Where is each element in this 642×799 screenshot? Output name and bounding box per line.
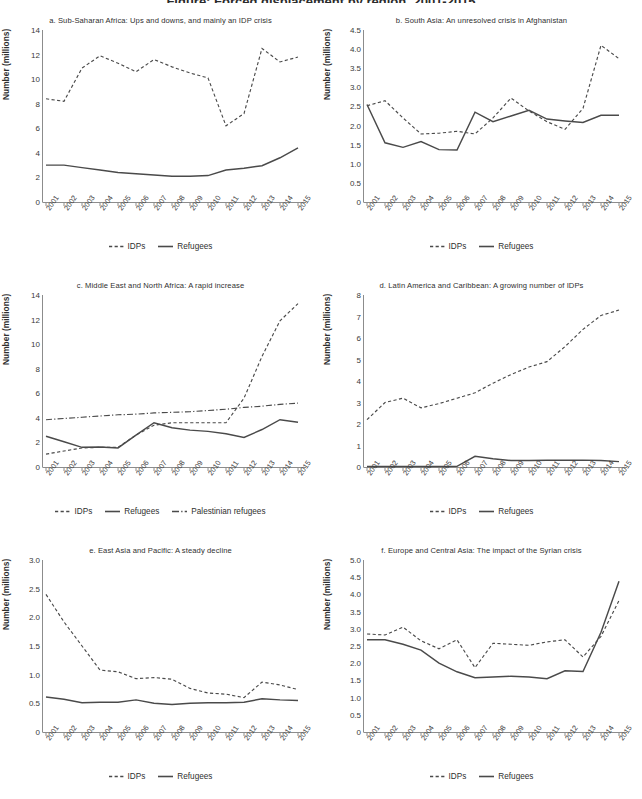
legend-swatch-solid-icon [479,508,494,515]
plot-area-d: Number (millions)01234567820012002200320… [321,295,642,495]
y-tick-label: 10 [31,340,40,349]
legend-item-idps[interactable]: IDPs [430,772,467,781]
legend-a: IDPsRefugees [0,242,321,251]
plot-svg-b [363,30,629,206]
x-axis-ticks-f: 2001200220032004200520062007200820092010… [363,734,623,776]
y-tick-label: 0 [36,198,40,207]
legend-label: Refugees [177,242,212,251]
y-tick-label: 1.0 [350,159,361,168]
y-tick-label: 4.0 [350,590,361,599]
y-tick-label: 2.0 [29,613,40,622]
legend-item-idps[interactable]: IDPs [430,242,467,251]
y-tick-label: 0 [36,463,40,472]
y-tick-label: 10 [31,75,40,84]
y-tick-label: 2.0 [350,121,361,130]
plot-svg-d [363,295,629,471]
y-tick-label: 14 [31,26,40,35]
chart-panel-a: a. Sub-Saharan Africa: Ups and downs, an… [0,14,321,279]
panel-title-f: f. Europe and Central Asia: The impact o… [321,546,642,555]
figure-title: Figure: Forced displacement by region, 2… [0,0,642,3]
legend-item-refugees[interactable]: Refugees [479,772,533,781]
legend-item-refugees[interactable]: Refugees [479,242,533,251]
legend-item-refugees[interactable]: Refugees [158,772,212,781]
panel-title-b: b. South Asia: An unresolved crisis in A… [321,16,642,25]
legend-item-refugees[interactable]: Refugees [479,507,533,516]
y-tick-label: 3.5 [350,607,361,616]
y-tick-label: 1.0 [29,670,40,679]
y-tick-label: 2.5 [29,584,40,593]
legend-item-refugees[interactable]: Refugees [105,507,159,516]
legend-item-refugees[interactable]: Refugees [158,242,212,251]
legend-label: Refugees [177,772,212,781]
y-axis-ticks-d: 012345678 [335,295,363,467]
legend-item-idps[interactable]: IDPs [430,507,467,516]
chart-panel-c: c. Middle East and North Africa: A rapid… [0,279,321,544]
legend-label: Palestinian refugees [191,507,265,516]
panel-title-e: e. East Asia and Pacific: A steady decli… [0,546,321,555]
plot-area-a: Number (millions)02468101214200120022003… [0,30,321,230]
y-tick-label: 0.5 [350,710,361,719]
legend-swatch-dashed-icon [430,243,445,250]
legend-item-idps[interactable]: IDPs [109,242,146,251]
x-axis-ticks-c: 2001200220032004200520062007200820092010… [42,469,302,511]
legend-swatch-solid-icon [105,508,120,515]
y-tick-label: 8 [36,99,40,108]
y-axis-ticks-b: 00.51.01.52.02.53.03.54.04.5 [335,30,363,202]
y-tick-label: 0 [357,728,361,737]
y-tick-label: 14 [31,291,40,300]
legend-swatch-dashdot-icon [172,508,187,515]
series-line-idps [46,48,298,125]
legend-swatch-solid-icon [158,773,173,780]
y-axis-label-e: Number (millions) [1,616,11,630]
legend-d: IDPsRefugees [321,507,642,516]
chart-panel-f: f. Europe and Central Asia: The impact o… [321,544,642,799]
legend-swatch-dashed-icon [109,243,124,250]
legend-label: IDPs [128,242,146,251]
y-axis-label-a: Number (millions) [1,86,11,100]
legend-label: Refugees [124,507,159,516]
series-line-refugees [367,105,619,150]
legend-label: Refugees [498,507,533,516]
y-tick-label: 0 [357,198,361,207]
y-tick-label: 0 [357,463,361,472]
legend-item-palestinian-refugees[interactable]: Palestinian refugees [172,507,265,516]
series-line-idps [367,45,619,134]
legend-label: IDPs [74,507,92,516]
chart-panel-b: b. South Asia: An unresolved crisis in A… [321,14,642,279]
legend-item-idps[interactable]: IDPs [55,507,92,516]
y-axis-label-c: Number (millions) [1,351,11,365]
series-line-refugees [46,148,298,176]
chart-panel-e: e. East Asia and Pacific: A steady decli… [0,544,321,799]
legend-label: IDPs [449,242,467,251]
series-line-idps [46,304,298,455]
y-tick-label: 5.0 [350,556,361,565]
panel-title-d: d. Latin America and Caribbean: A growin… [321,281,642,290]
y-tick-label: 6 [36,389,40,398]
x-axis-ticks-a: 2001200220032004200520062007200820092010… [42,204,302,246]
y-tick-label: 6 [357,334,361,343]
y-axis-label-f: Number (millions) [322,616,332,630]
series-line-refugees [46,697,298,704]
legend-item-idps[interactable]: IDPs [109,772,146,781]
y-tick-label: 4.5 [350,573,361,582]
y-tick-label: 12 [31,50,40,59]
y-tick-label: 3.0 [350,83,361,92]
y-tick-label: 1.0 [350,693,361,702]
y-tick-label: 8 [36,364,40,373]
y-tick-label: 5 [357,355,361,364]
plot-area-e: Number (millions)00.51.01.52.02.53.02001… [0,560,321,760]
panel-grid: a. Sub-Saharan Africa: Ups and downs, an… [0,14,642,799]
y-tick-label: 6 [36,124,40,133]
y-tick-label: 3.0 [29,556,40,565]
y-tick-label: 4.5 [350,26,361,35]
plot-area-b: Number (millions)00.51.01.52.02.53.03.54… [321,30,642,230]
y-tick-label: 12 [31,315,40,324]
y-tick-label: 1.5 [350,676,361,685]
legend-swatch-dashed-icon [430,773,445,780]
y-tick-label: 4.0 [350,45,361,54]
y-axis-ticks-e: 00.51.01.52.02.53.0 [14,560,42,732]
y-tick-label: 0.5 [29,699,40,708]
y-tick-label: 2 [36,173,40,182]
plot-svg-f [363,560,629,736]
legend-label: IDPs [449,507,467,516]
